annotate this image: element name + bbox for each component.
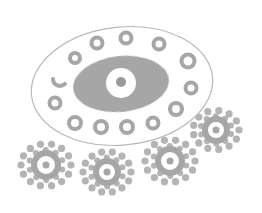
ring-circle-icon <box>50 98 61 109</box>
ring-circle-icon <box>186 83 197 94</box>
eye-and-gears-illustration <box>0 0 262 213</box>
ring-circle-icon <box>121 33 132 44</box>
ring-circle-icon <box>148 118 159 129</box>
ring-circle-icon <box>69 117 81 129</box>
ring-circle-icon <box>92 38 103 49</box>
ring-circle-icon <box>154 39 165 50</box>
ring-circle-icon <box>95 121 107 133</box>
ring-circle-icon <box>170 103 182 115</box>
ring-circle-icon <box>121 121 133 133</box>
eye-pupil-dot <box>116 77 126 87</box>
ring-circle-icon <box>182 55 195 68</box>
ring-circle-icon <box>70 53 80 63</box>
